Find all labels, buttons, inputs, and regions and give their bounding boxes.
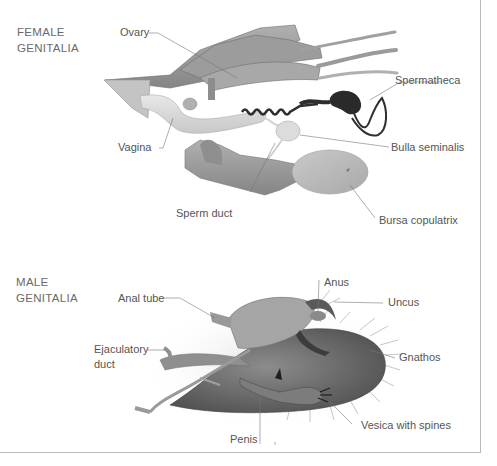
female-title-line2: GENITALIA	[17, 40, 79, 56]
spermatheca-gland	[330, 91, 361, 115]
label-vesica-with-spines: Vesica with spines	[361, 419, 451, 432]
genitalia-illustration	[0, 0, 497, 466]
label-ejaculatory-duct-line2: duct	[94, 358, 115, 371]
female-section-title: FEMALE GENITALIA	[17, 24, 79, 56]
label-uncus: Uncus	[388, 296, 419, 309]
label-ovary: Ovary	[120, 26, 149, 39]
male-section-title: MALE GENITALIA	[16, 274, 78, 306]
female-illustration	[104, 25, 397, 195]
male-title-line1: MALE	[16, 274, 78, 290]
label-bulla-seminalis: Bulla seminalis	[391, 141, 464, 154]
label-anus: Anus	[324, 276, 349, 289]
vagina-structure	[140, 95, 266, 133]
label-sperm-duct: Sperm duct	[176, 207, 232, 220]
label-gnathos: Gnathos	[399, 351, 441, 364]
bulla-seminalis-structure	[276, 121, 300, 141]
spermatheca-duct	[242, 104, 318, 115]
label-penis: Penis	[230, 433, 258, 446]
female-title-line1: FEMALE	[17, 24, 79, 40]
label-vagina: Vagina	[118, 141, 151, 154]
male-title-line2: GENITALIA	[16, 290, 78, 306]
label-anal-tube: Anal tube	[118, 292, 164, 305]
label-ejaculatory-duct-line1: Ejaculatory	[94, 343, 148, 356]
label-bursa-copulatrix: Bursa copulatrix	[379, 214, 458, 227]
label-spermatheca: Spermatheca	[395, 74, 460, 87]
bursa-copulatrix-structure	[292, 150, 368, 194]
male-illustration	[135, 290, 402, 430]
